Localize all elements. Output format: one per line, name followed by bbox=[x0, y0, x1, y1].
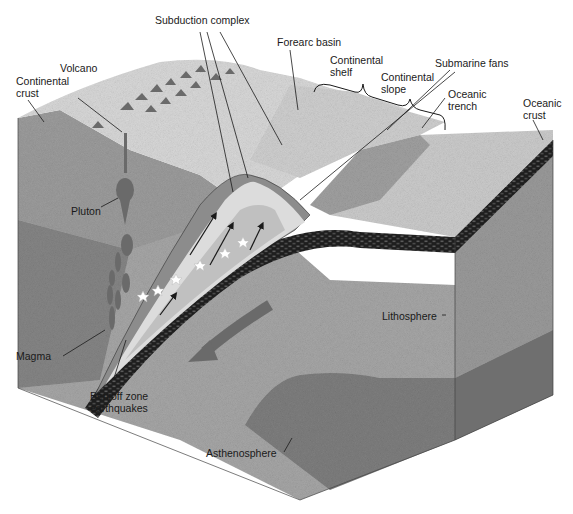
label-volcano: Volcano bbox=[60, 62, 97, 74]
label-pluton: Pluton bbox=[71, 205, 101, 217]
label-lithosphere: Lithosphere bbox=[382, 310, 437, 322]
label-benioff-zone: Benioff zone earthquakes bbox=[90, 390, 148, 414]
label-continental-crust: Continental crust bbox=[16, 75, 69, 99]
label-forearc-basin: Forearc basin bbox=[277, 36, 341, 48]
label-submarine-fans: Submarine fans bbox=[435, 57, 509, 69]
label-continental-slope: Continental slope bbox=[381, 71, 434, 95]
label-subduction-complex: Subduction complex bbox=[155, 14, 250, 26]
label-oceanic-trench: Oceanic trench bbox=[448, 88, 487, 112]
label-continental-shelf: Continental shelf bbox=[330, 54, 383, 78]
label-oceanic-crust: Oceanic crust bbox=[523, 97, 562, 121]
subduction-block-diagram bbox=[0, 0, 573, 514]
label-magma: Magma bbox=[16, 350, 51, 362]
label-asthenosphere: Asthenosphere bbox=[206, 447, 277, 459]
